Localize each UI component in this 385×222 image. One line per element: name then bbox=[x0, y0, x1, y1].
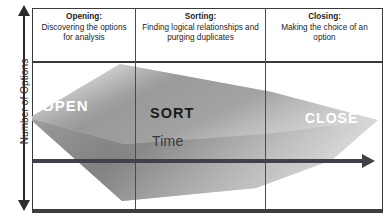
column-header-opening: Opening: Discovering the options for ana… bbox=[33, 10, 135, 60]
column-description-opening: Discovering the options for analysis bbox=[37, 23, 131, 44]
y-axis-label: Number of Options bbox=[19, 42, 30, 162]
frame-bottom-bar bbox=[32, 209, 383, 213]
column-header-sorting: Sorting: Finding logical relationships a… bbox=[136, 10, 265, 60]
stage-label-close: CLOSE bbox=[305, 110, 358, 126]
decision-funnel-diagram: Number of Options bbox=[0, 0, 385, 222]
column-header-closing: Closing: Making the choice of an option bbox=[266, 10, 383, 60]
column-title-closing: Closing: bbox=[270, 12, 379, 23]
column-description-sorting: Finding logical relationships and purgin… bbox=[140, 23, 261, 44]
stage-label-open: OPEN bbox=[42, 97, 89, 114]
column-description-closing: Making the choice of an option bbox=[270, 23, 379, 44]
y-axis-down-arrow-icon bbox=[18, 200, 30, 211]
stage-label-sort: SORT bbox=[150, 105, 194, 121]
x-axis-label: Time bbox=[152, 133, 183, 149]
header-row-divider bbox=[32, 61, 383, 63]
column-title-sorting: Sorting: bbox=[140, 12, 261, 23]
column-title-opening: Opening: bbox=[37, 12, 131, 23]
time-axis-line bbox=[33, 159, 363, 163]
time-axis-arrow-icon bbox=[362, 154, 375, 168]
